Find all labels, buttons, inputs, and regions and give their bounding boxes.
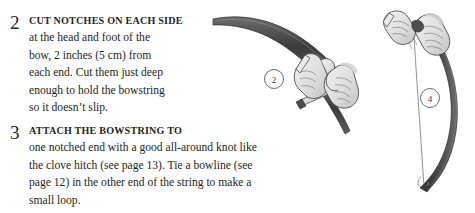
bowstring-line	[414, 38, 424, 186]
step-2-lead: Cut notches on each side	[29, 15, 183, 26]
callout-marker-4: 4	[421, 89, 440, 108]
step-number-3: 3	[10, 123, 26, 142]
step-3-line-1: one notched end with a good all-around k…	[29, 139, 270, 156]
step-number-2: 2	[10, 13, 26, 32]
callout-marker-2: 2	[265, 70, 284, 89]
step-2-line-2: bow, 2 inches (5 cm) from	[29, 47, 240, 64]
step-2-line-3: each end. Cut them just deep	[29, 64, 240, 81]
bow-limb-highlight	[430, 41, 456, 186]
step-2-line-1: at the head and foot of the	[29, 29, 240, 46]
callout-marker-4-label: 4	[428, 94, 433, 104]
instruction-step-2: 2 Cut notches on each side at the head a…	[10, 12, 240, 116]
left-hand-string-shape	[383, 11, 415, 44]
bowstring-knot-shape	[412, 20, 424, 32]
instruction-step-3: 3 Attach the bowstring to one notched en…	[10, 122, 270, 209]
left-hand-shape	[294, 54, 334, 99]
bow-lower-tip	[420, 184, 430, 192]
step-2-body: Cut notches on each side at the head and…	[29, 12, 240, 116]
right-hand-bowtip-shape	[415, 13, 450, 55]
step-3-body: Attach the bowstring to one notched end …	[29, 122, 270, 209]
page-root: 2 Cut notches on each side at the head a…	[0, 0, 475, 213]
bow-limb-shape	[424, 38, 457, 188]
callout-marker-2-label: 2	[272, 75, 277, 85]
bow-stave-lower	[317, 86, 350, 134]
knife-handle-shape	[296, 99, 306, 109]
bowstring-loop-shape	[418, 177, 428, 188]
step-2-line-4: enough to hold the bowstring	[29, 82, 240, 99]
step-3-line-3: page 12) in the other end of the string …	[29, 174, 270, 191]
step-3-line-2: the clove hitch (see page 13). Tie a bow…	[29, 157, 270, 174]
step-3-lead: Attach the bowstring to	[29, 125, 182, 136]
right-hand-shape	[324, 62, 358, 108]
step-3-line-4: small loop.	[29, 192, 270, 209]
knife-blade-shape	[300, 89, 331, 105]
string-tail-shape	[409, 30, 412, 49]
string-tail-shape-2	[413, 27, 417, 45]
step-2-line-5: so it doesn’t slip.	[29, 99, 240, 116]
knife-tip-shape	[330, 86, 343, 94]
stringing-bow-illustration: 4	[383, 11, 457, 192]
